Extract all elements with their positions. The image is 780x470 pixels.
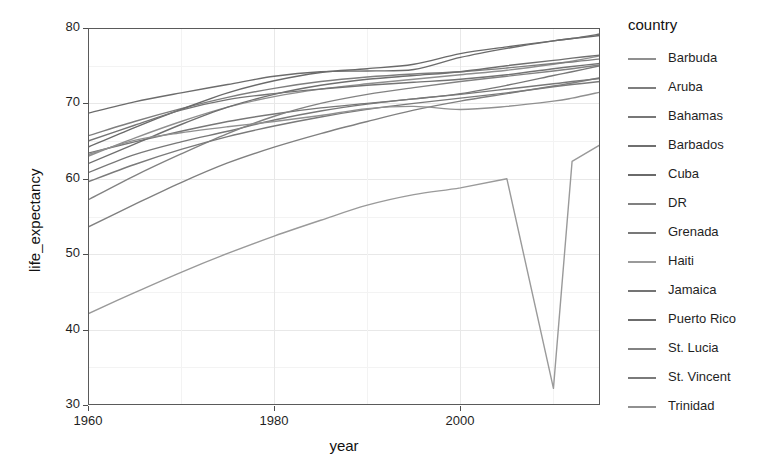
y-tick-mark <box>83 330 88 331</box>
y-tick-label: 40 <box>40 321 80 336</box>
x-tick-label: 2000 <box>430 413 490 428</box>
legend-item[interactable]: Trinidad <box>628 396 773 418</box>
legend-key-line <box>628 116 656 118</box>
legend-item-label: Grenada <box>668 224 719 239</box>
legend-item[interactable]: Bahamas <box>628 106 773 128</box>
y-axis-title: life_expectancy <box>26 168 43 271</box>
y-tick-mark <box>83 103 88 104</box>
legend-key-line <box>628 319 656 321</box>
legend-item[interactable]: DR <box>628 193 773 215</box>
legend-key-line <box>628 406 656 408</box>
x-axis-title: year <box>284 437 404 454</box>
legend-item-label: Haiti <box>668 253 694 268</box>
y-tick-label: 30 <box>40 396 80 411</box>
legend-item-label: Jamaica <box>668 282 716 297</box>
x-tick-label: 1980 <box>244 413 304 428</box>
legend-item[interactable]: St. Vincent <box>628 367 773 389</box>
x-tick-mark <box>460 406 461 411</box>
legend-key-line <box>628 261 656 263</box>
legend-key-line <box>628 58 656 60</box>
legend-item[interactable]: St. Lucia <box>628 338 773 360</box>
legend-item-label: DR <box>668 195 687 210</box>
legend-key-line <box>628 174 656 176</box>
panel-border <box>88 28 600 405</box>
legend-item-label: Barbados <box>668 137 724 152</box>
legend-key-line <box>628 145 656 147</box>
legend-key-line <box>628 87 656 89</box>
x-tick-label: 1960 <box>58 413 118 428</box>
legend-key-line <box>628 203 656 205</box>
x-tick-mark <box>88 406 89 411</box>
y-tick-label: 50 <box>40 245 80 260</box>
legend-item[interactable]: Cuba <box>628 164 773 186</box>
x-tick-mark <box>274 406 275 411</box>
legend-item-label: Barbuda <box>668 50 717 65</box>
y-tick-label: 60 <box>40 170 80 185</box>
legend-item-label: Aruba <box>668 79 703 94</box>
y-tick-label: 70 <box>40 94 80 109</box>
legend-item[interactable]: Barbados <box>628 135 773 157</box>
chart-root: 304050607080 196019802000 life_expectanc… <box>0 0 780 470</box>
legend-item-label: St. Lucia <box>668 340 719 355</box>
legend-item[interactable]: Grenada <box>628 222 773 244</box>
legend-item[interactable]: Puerto Rico <box>628 309 773 331</box>
legend-item-label: Cuba <box>668 166 699 181</box>
legend-item-label: Bahamas <box>668 108 723 123</box>
legend-item-label: St. Vincent <box>668 369 731 384</box>
legend-item[interactable]: Jamaica <box>628 280 773 302</box>
legend-item[interactable]: Aruba <box>628 77 773 99</box>
legend-title: country <box>628 16 677 33</box>
legend-key-line <box>628 377 656 379</box>
y-tick-label: 80 <box>40 19 80 34</box>
legend-item[interactable]: Haiti <box>628 251 773 273</box>
y-tick-mark <box>83 254 88 255</box>
y-tick-mark <box>83 28 88 29</box>
legend-item-label: Puerto Rico <box>668 311 736 326</box>
legend-item-label: Trinidad <box>668 398 714 413</box>
legend-key-line <box>628 232 656 234</box>
y-tick-mark <box>83 179 88 180</box>
legend-key-line <box>628 348 656 350</box>
legend-key-line <box>628 290 656 292</box>
legend-item[interactable]: Barbuda <box>628 48 773 70</box>
